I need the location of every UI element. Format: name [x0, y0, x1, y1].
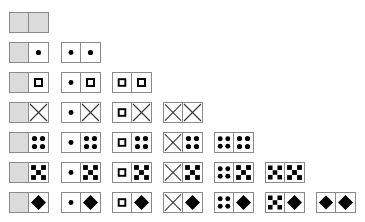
domino-half-right: [29, 133, 48, 152]
domino-half-left: [62, 163, 81, 182]
domino-tile-2-5: [112, 162, 152, 183]
domino-half-left: [62, 193, 81, 212]
four-dots-icon: [215, 193, 233, 212]
diamond-icon: [285, 193, 304, 212]
five-squares-icon: [81, 163, 100, 182]
blank-icon: [10, 13, 28, 32]
five-squares-icon: [183, 163, 202, 182]
hollow-square-icon: [113, 193, 131, 212]
domino-half-right: [81, 133, 100, 152]
blank-icon: [10, 193, 28, 212]
domino-tile-2-2: [112, 72, 152, 93]
domino-half-left: [164, 193, 183, 212]
domino-tile-0-0: [9, 12, 49, 33]
diamond-icon: [132, 193, 151, 212]
domino-half-left: [215, 133, 234, 152]
dot-icon: [62, 103, 80, 122]
domino-half-left: [113, 193, 132, 212]
diamond-icon: [183, 193, 202, 212]
five-squares-icon: [132, 163, 151, 182]
domino-half-left: [113, 163, 132, 182]
five-squares-icon: [234, 163, 253, 182]
domino-tile-1-6: [61, 192, 101, 213]
five-squares-icon: [285, 163, 304, 182]
domino-half-right: [132, 163, 151, 182]
domino-half-right: [29, 73, 48, 92]
domino-tile-2-6: [112, 192, 152, 213]
domino-half-right: [132, 133, 151, 152]
domino-half-right: [29, 13, 48, 32]
domino-tile-3-5: [163, 162, 203, 183]
domino-tile-5-6: [265, 192, 305, 213]
domino-half-right: [183, 103, 202, 122]
domino-tile-2-4: [112, 132, 152, 153]
diamond-icon: [317, 193, 335, 212]
blank-icon: [10, 133, 28, 152]
domino-tile-0-3: [9, 102, 49, 123]
five-squares-icon: [266, 193, 284, 212]
domino-half-right: [285, 163, 304, 182]
domino-half-right: [183, 193, 202, 212]
domino-half-right: [81, 103, 100, 122]
domino-half-right: [81, 193, 100, 212]
four-dots-icon: [132, 133, 151, 152]
cross-icon: [164, 193, 182, 212]
domino-tile-1-5: [61, 162, 101, 183]
blank-icon: [10, 103, 28, 122]
domino-half-right: [29, 163, 48, 182]
blank-icon: [10, 43, 28, 62]
hollow-square-icon: [113, 133, 131, 152]
domino-half-left: [266, 193, 285, 212]
domino-tile-4-6: [214, 192, 254, 213]
domino-half-right: [234, 193, 253, 212]
domino-half-left: [62, 103, 81, 122]
domino-tile-4-4: [214, 132, 254, 153]
domino-half-right: [132, 103, 151, 122]
domino-tile-1-4: [61, 132, 101, 153]
domino-half-left: [215, 193, 234, 212]
domino-half-left: [164, 133, 183, 152]
domino-half-right: [183, 163, 202, 182]
dot-icon: [81, 43, 100, 62]
domino-half-right: [183, 133, 202, 152]
domino-half-right: [29, 103, 48, 122]
domino-tile-0-5: [9, 162, 49, 183]
four-dots-icon: [29, 133, 48, 152]
domino-tile-3-3: [163, 102, 203, 123]
dot-icon: [62, 133, 80, 152]
domino-half-left: [10, 133, 29, 152]
domino-half-left: [10, 193, 29, 212]
four-dots-icon: [234, 133, 253, 152]
hollow-square-icon: [113, 163, 131, 182]
domino-half-right: [285, 193, 304, 212]
domino-half-left: [10, 43, 29, 62]
domino-half-left: [10, 103, 29, 122]
four-dots-icon: [215, 133, 233, 152]
domino-half-left: [266, 163, 285, 182]
domino-tile-0-4: [9, 132, 49, 153]
domino-half-right: [336, 193, 355, 212]
domino-half-right: [29, 43, 48, 62]
cross-icon: [183, 103, 202, 122]
cross-icon: [132, 103, 151, 122]
domino-half-left: [62, 43, 81, 62]
domino-tile-0-2: [9, 72, 49, 93]
diamond-icon: [29, 193, 48, 212]
domino-tile-4-5: [214, 162, 254, 183]
domino-tile-0-6: [9, 192, 49, 213]
hollow-square-icon: [132, 73, 151, 92]
domino-half-left: [113, 103, 132, 122]
domino-half-left: [164, 103, 183, 122]
domino-tile-2-3: [112, 102, 152, 123]
dot-icon: [62, 163, 80, 182]
domino-tile-6-6: [316, 192, 356, 213]
five-squares-icon: [266, 163, 284, 182]
domino-half-right: [81, 43, 100, 62]
domino-tile-1-3: [61, 102, 101, 123]
blank-icon: [10, 73, 28, 92]
domino-half-left: [317, 193, 336, 212]
diamond-icon: [234, 193, 253, 212]
domino-tile-5-5: [265, 162, 305, 183]
hollow-square-icon: [81, 73, 100, 92]
domino-half-left: [113, 73, 132, 92]
